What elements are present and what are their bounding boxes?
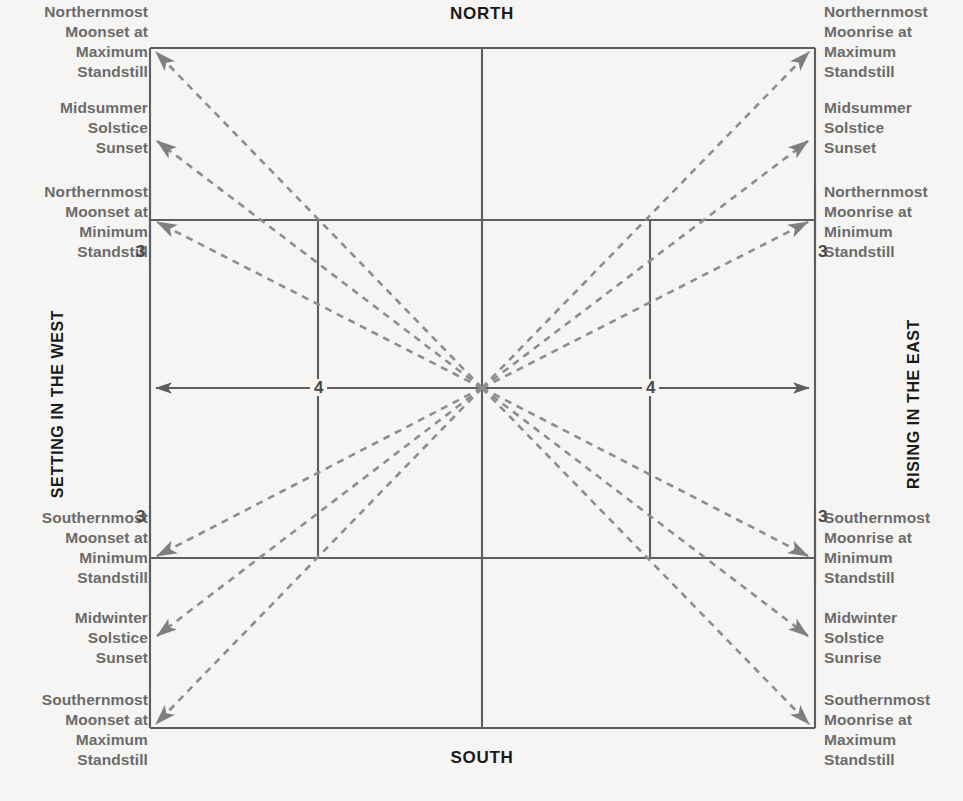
- event-label-southernmost-moonset-max-standstill: SouthernmostMoonset atMaximumStandstill: [0, 690, 148, 770]
- ray-southernmost-moonset-min-standstill: [157, 388, 482, 556]
- event-label-southernmost-moonset-min-standstill: SouthernmostMoonset atMinimumStandstill: [0, 508, 148, 588]
- event-label-midsummer-solstice-sunset-east: MidsummerSolsticeSunset: [824, 98, 963, 158]
- tick-label-west-4: 4: [310, 379, 327, 396]
- event-label-southernmost-moonrise-max-standstill: SouthernmostMoonrise atMaximumStandstill: [824, 690, 963, 770]
- axis-label-rising-in-the-east: RISING IN THE EAST: [905, 294, 923, 514]
- event-label-midwinter-solstice-sunrise-east: MidwinterSolsticeSunrise: [824, 608, 963, 668]
- tick-label-northwest-3: 3: [136, 243, 145, 260]
- astronomy-horizon-diagram: NORTH SOUTH SETTING IN THE WEST RISING I…: [0, 0, 963, 801]
- cardinal-label-south: SOUTH: [382, 748, 582, 768]
- event-label-southernmost-moonrise-min-standstill: SouthernmostMoonrise atMinimumStandstill: [824, 508, 963, 588]
- event-label-midwinter-solstice-sunset-west: MidwinterSolsticeSunset: [0, 608, 148, 668]
- ray-midsummer-solstice-sunset-east: [482, 141, 808, 388]
- ray-northernmost-moonrise-min-standstill: [482, 222, 808, 388]
- tick-label-southwest-3: 3: [136, 508, 145, 525]
- ray-midwinter-solstice-sunrise-east: [482, 388, 808, 636]
- axis-label-setting-in-the-west: SETTING IN THE WEST: [49, 294, 67, 514]
- event-label-northernmost-moonset-min-standstill: NorthernmostMoonset atMinimumStandstill: [0, 182, 148, 262]
- tick-label-southeast-3: 3: [818, 508, 827, 525]
- ray-southernmost-moonrise-max-standstill: [482, 388, 809, 724]
- tick-label-northeast-3: 3: [818, 243, 827, 260]
- ray-southernmost-moonrise-min-standstill: [482, 388, 808, 556]
- event-label-midsummer-solstice-sunset-west: MidsummerSolsticeSunset: [0, 98, 148, 158]
- ray-midwinter-solstice-sunset-west: [157, 388, 482, 636]
- event-label-northernmost-moonrise-max-standstill: NorthernmostMoonrise atMaximumStandstill: [824, 2, 963, 82]
- cardinal-label-north: NORTH: [382, 4, 582, 24]
- ray-midsummer-solstice-sunset-west: [157, 141, 482, 388]
- tick-label-east-4: 4: [642, 379, 659, 396]
- ray-northernmost-moonset-min-standstill: [157, 222, 482, 388]
- event-label-northernmost-moonset-max-standstill: NorthernmostMoonset atMaximumStandstill: [0, 2, 148, 82]
- event-label-northernmost-moonrise-min-standstill: NorthernmostMoonrise atMinimumStandstill: [824, 182, 963, 262]
